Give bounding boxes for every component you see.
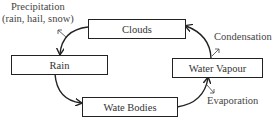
water-cycle-diagram: Clouds Rain Wate Bodies Water Vapour Pre… xyxy=(0,0,273,121)
node-clouds: Clouds xyxy=(88,19,186,39)
label-precipitation-types: (rain, hail, snow) xyxy=(2,13,74,25)
node-water-bodies: Wate Bodies xyxy=(82,97,178,117)
node-rain: Rain xyxy=(11,55,108,75)
node-water-vapour: Water Vapour xyxy=(172,58,263,78)
flow-arrow-evaporation xyxy=(207,85,214,93)
node-clouds-label: Clouds xyxy=(122,24,152,35)
arrow-rain-to-waterbodies xyxy=(55,74,81,103)
node-rain-label: Rain xyxy=(50,60,70,71)
arrow-waterbodies-to-vapour xyxy=(177,78,208,107)
label-condensation: Condensation xyxy=(214,31,272,43)
label-precipitation: Precipitation xyxy=(11,1,65,13)
arrow-clouds-to-rain xyxy=(60,27,88,54)
flow-arrow-precipitation xyxy=(58,30,66,37)
flow-arrow-condensation xyxy=(212,49,219,56)
node-water-vapour-label: Water Vapour xyxy=(189,63,247,74)
arrow-vapour-to-clouds xyxy=(186,26,211,58)
label-evaporation: Evaporation xyxy=(207,95,258,107)
node-water-bodies-label: Wate Bodies xyxy=(103,102,156,113)
